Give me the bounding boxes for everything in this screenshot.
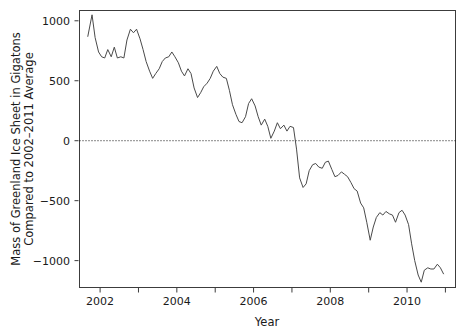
x-tick-label: 2008 <box>316 295 344 308</box>
y-axis-ticks: 10005000−500−1000 <box>33 15 79 268</box>
x-tick-label: 2002 <box>86 295 114 308</box>
y-tick-label: 1000 <box>42 15 70 28</box>
plot-frame <box>80 11 456 288</box>
y-tick-label: −1000 <box>33 255 70 268</box>
x-tick-label: 2004 <box>163 295 191 308</box>
y-tick-label: −500 <box>40 195 70 208</box>
x-axis-ticks: 20022004200620082010 <box>86 288 445 309</box>
chart-container: 10005000−500−1000 20022004200620082010 Y… <box>0 0 472 332</box>
y-tick-label: 500 <box>49 75 70 88</box>
x-axis-title: Year <box>254 315 280 329</box>
line-chart: 10005000−500−1000 20022004200620082010 Y… <box>0 0 472 332</box>
y-axis-title-line1: Mass of Greenland Ice Sheet in Gigatons <box>9 32 23 265</box>
y-tick-label: 0 <box>63 135 70 148</box>
y-axis-title-line2: Compared to 2002–2011 Average <box>22 52 36 245</box>
x-tick-label: 2010 <box>393 295 421 308</box>
data-series-line <box>88 15 444 282</box>
x-tick-label: 2006 <box>240 295 268 308</box>
